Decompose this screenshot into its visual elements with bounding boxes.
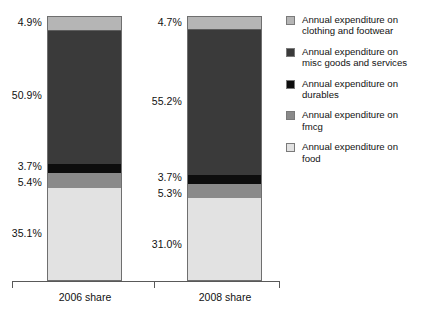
category-label-2008: 2008 share xyxy=(180,291,270,303)
segment-misc-2008[interactable] xyxy=(188,29,261,174)
value-label-clothing-2008: 4.7% xyxy=(140,17,182,28)
segment-food-2008[interactable] xyxy=(188,198,261,280)
legend-swatch-misc-icon xyxy=(286,48,295,57)
value-label-misc-2006: 50.9% xyxy=(0,90,42,101)
legend-item-misc[interactable]: Annual expenditure on misc goods and ser… xyxy=(286,46,429,69)
legend-label-clothing-line1: Annual expenditure on xyxy=(302,14,398,25)
segment-clothing-2006[interactable] xyxy=(48,17,121,30)
legend-label-misc-line1: Annual expenditure on xyxy=(302,46,398,57)
legend-item-durables[interactable]: Annual expenditure on durables xyxy=(286,78,429,101)
value-label-food-2006: 35.1% xyxy=(0,228,42,239)
legend-item-clothing[interactable]: Annual expenditure on clothing and footw… xyxy=(286,14,429,37)
value-label-misc-2008: 55.2% xyxy=(140,96,182,107)
value-label-durables-2008: 3.7% xyxy=(140,172,182,183)
plot-area: 4.9% 50.9% 3.7% 5.4% 35.1% 4.7% 55.2% 3.… xyxy=(0,0,280,317)
legend-label-fmcg: Annual expenditure on fmcg xyxy=(302,109,398,132)
legend-label-food-line2: food xyxy=(302,153,398,164)
segment-food-2006[interactable] xyxy=(48,188,121,280)
value-label-fmcg-2008: 5.3% xyxy=(140,188,182,199)
legend-label-durables-line2: durables xyxy=(302,89,398,100)
x-axis-tick-middle xyxy=(154,281,155,288)
bar-2006-share[interactable] xyxy=(47,16,122,281)
legend-label-fmcg-line2: fmcg xyxy=(302,121,398,132)
legend-swatch-fmcg-icon xyxy=(286,111,295,120)
legend-label-food-line1: Annual expenditure on xyxy=(302,141,398,152)
segment-durables-2008[interactable] xyxy=(188,175,261,185)
segment-fmcg-2008[interactable] xyxy=(188,184,261,198)
legend-label-clothing: Annual expenditure on clothing and footw… xyxy=(302,14,398,37)
value-label-clothing-2006: 4.9% xyxy=(0,17,42,28)
category-label-2006: 2006 share xyxy=(40,291,130,303)
value-label-fmcg-2006: 5.4% xyxy=(0,177,42,188)
value-label-durables-2006: 3.7% xyxy=(0,161,42,172)
stacked-bar-chart: 4.9% 50.9% 3.7% 5.4% 35.1% 4.7% 55.2% 3.… xyxy=(0,0,429,317)
x-axis-tick-right xyxy=(279,281,280,288)
legend-item-fmcg[interactable]: Annual expenditure on fmcg xyxy=(286,109,429,132)
bar-2008-share[interactable] xyxy=(187,16,262,281)
segment-misc-2006[interactable] xyxy=(48,30,121,164)
legend-label-misc-line2: misc goods and services xyxy=(302,57,407,68)
legend-label-misc: Annual expenditure on misc goods and ser… xyxy=(302,46,407,69)
legend-label-durables: Annual expenditure on durables xyxy=(302,78,398,101)
segment-durables-2006[interactable] xyxy=(48,164,121,174)
x-axis-line xyxy=(12,281,280,282)
legend-item-food[interactable]: Annual expenditure on food xyxy=(286,141,429,164)
legend: Annual expenditure on clothing and footw… xyxy=(286,14,429,173)
legend-label-clothing-line2: clothing and footwear xyxy=(302,25,398,36)
segment-clothing-2008[interactable] xyxy=(188,17,261,29)
legend-label-food: Annual expenditure on food xyxy=(302,141,398,164)
legend-label-durables-line1: Annual expenditure on xyxy=(302,78,398,89)
x-axis-tick-left xyxy=(12,281,13,288)
value-label-food-2008: 31.0% xyxy=(140,239,182,250)
legend-label-fmcg-line1: Annual expenditure on xyxy=(302,109,398,120)
legend-swatch-clothing-icon xyxy=(286,16,295,25)
segment-fmcg-2006[interactable] xyxy=(48,173,121,187)
legend-swatch-durables-icon xyxy=(286,80,295,89)
legend-swatch-food-icon xyxy=(286,143,295,152)
